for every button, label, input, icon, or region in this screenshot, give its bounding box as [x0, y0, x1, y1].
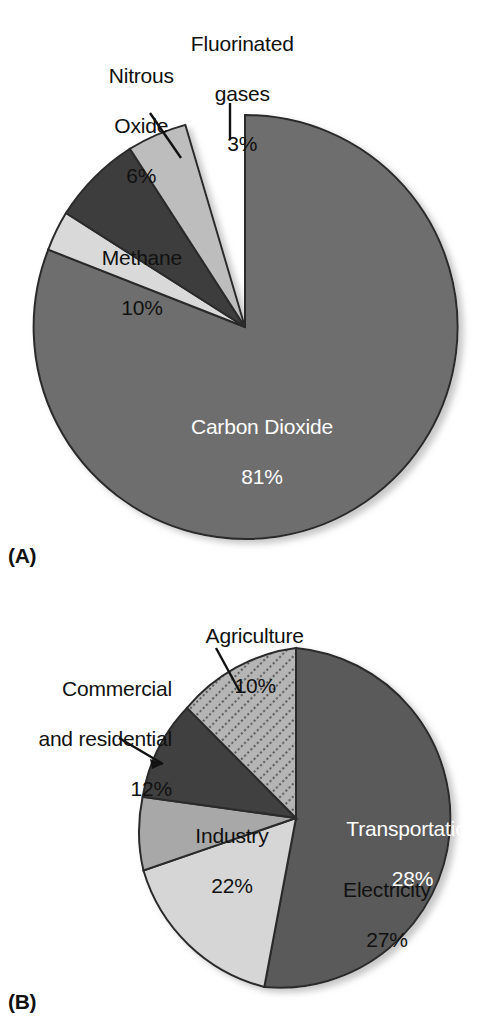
pie-b-label-commercial-residential: Commercial and residential 12% — [2, 651, 172, 826]
pie-a-label-fluorinated-gases-line1: Fluorinated — [191, 32, 294, 55]
panel-tag-a: (A) — [8, 544, 36, 568]
pie-b-label-agriculture-value: 10% — [235, 674, 276, 697]
pie-a-label-carbon-dioxide-name: Carbon Dioxide — [191, 415, 333, 438]
pie-a-label-methane: Methane 10% — [50, 220, 200, 345]
pie-a-label-fluorinated-gases: Fluorinated gases 3% — [160, 6, 302, 181]
pie-a-label-nitrous-oxide-value: 6% — [126, 164, 156, 187]
pie-a-label-carbon-dioxide-value: 81% — [241, 465, 282, 488]
pie-a-label-methane-name: Methane — [102, 246, 182, 269]
pie-b-label-transportation-name: Transportation — [346, 817, 478, 840]
panel-tag-b: (B) — [8, 990, 36, 1014]
pie-a-label-fluorinated-gases-line2: gases — [215, 82, 270, 105]
pie-b-label-industry-value: 22% — [211, 874, 252, 897]
pie-b-label-commercial-residential-line2: and residential — [38, 727, 172, 750]
pie-b-label-electricity-name: Electricity — [343, 878, 431, 901]
pie-b-label-industry-name: Industry — [195, 824, 268, 847]
pie-b-label-electricity: Electricity 27% — [300, 852, 440, 977]
pie-b-label-electricity-value: 27% — [366, 928, 407, 951]
pie-b-label-agriculture-name: Agriculture — [206, 624, 304, 647]
figure-two-pie-charts: Carbon Dioxide 81% Methane 10% Nitrous O… — [0, 0, 485, 1031]
pie-b-label-commercial-residential-value: 12% — [131, 777, 172, 800]
pie-b-label-agriculture: Agriculture 10% — [158, 598, 330, 723]
pie-b-label-commercial-residential-line1: Commercial — [62, 677, 172, 700]
pie-a-label-carbon-dioxide: Carbon Dioxide 81% — [125, 389, 365, 514]
pie-a-label-methane-value: 10% — [121, 296, 162, 319]
pie-a-label-fluorinated-gases-value: 3% — [227, 132, 257, 155]
